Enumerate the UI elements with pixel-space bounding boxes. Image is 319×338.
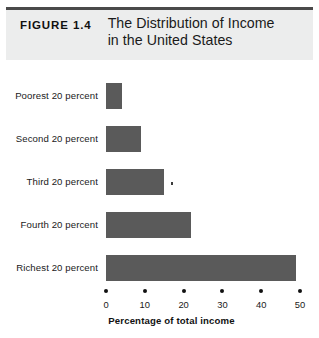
figure-container: FIGURE 1.4 The Distribution of Income in… [0, 0, 319, 338]
x-axis-tick-label: 40 [256, 299, 266, 310]
x-axis-tick [182, 289, 186, 293]
figure-header: FIGURE 1.4 The Distribution of Income in… [6, 10, 313, 60]
x-axis-tick-label: 50 [295, 299, 305, 310]
bar-track [106, 126, 300, 152]
x-axis-tick [220, 289, 224, 293]
bar [106, 255, 296, 281]
bar [106, 126, 141, 152]
bar-row: Richest 20 percent [0, 246, 319, 289]
bar-row: Fourth 20 percent [0, 203, 319, 246]
x-axis-ticks [0, 289, 319, 299]
x-axis-tick [104, 289, 108, 293]
chart-plot-area: Poorest 20 percentSecond 20 percentThird… [0, 66, 319, 338]
bar [106, 212, 191, 238]
x-axis-tick-label: 10 [140, 299, 150, 310]
print-speck [171, 182, 173, 185]
x-axis-tick [143, 289, 147, 293]
x-axis-tick-labels: 01020304050 [0, 299, 319, 312]
figure-title: The Distribution of Income in the United… [108, 15, 313, 48]
bar-category-label: Poorest 20 percent [0, 90, 98, 101]
x-axis-title: Percentage of total income [0, 315, 319, 326]
x-axis: 01020304050 Percentage of total income [0, 289, 319, 326]
bar-rows: Poorest 20 percentSecond 20 percentThird… [0, 74, 319, 289]
x-axis-tick-label: 20 [178, 299, 188, 310]
bar-category-label: Third 20 percent [0, 176, 98, 187]
bar-track [106, 83, 300, 109]
bar-track [106, 212, 300, 238]
figure-number-label: FIGURE 1.4 [20, 19, 92, 31]
bar-row: Poorest 20 percent [0, 74, 319, 117]
x-axis-tick [298, 289, 302, 293]
bar-row: Second 20 percent [0, 117, 319, 160]
bar-category-label: Richest 20 percent [0, 262, 98, 273]
bar-row: Third 20 percent [0, 160, 319, 203]
bar-track [106, 255, 300, 281]
x-axis-tick-label: 30 [217, 299, 227, 310]
x-axis-tick-label: 0 [103, 299, 108, 310]
bar-category-label: Fourth 20 percent [0, 219, 98, 230]
bar [106, 83, 122, 109]
figure-title-line-2: in the United States [108, 32, 313, 49]
bar-category-label: Second 20 percent [0, 133, 98, 144]
figure-title-line-1: The Distribution of Income [108, 15, 313, 32]
bar [106, 169, 164, 195]
x-axis-tick [259, 289, 263, 293]
bar-track [106, 169, 300, 195]
